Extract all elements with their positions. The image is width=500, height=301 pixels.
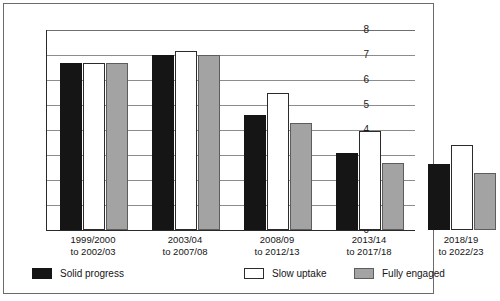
bar-fully[interactable] [198,55,220,230]
bar-slow[interactable] [83,63,105,231]
x-axis-label-line: to 2007/08 [139,246,231,258]
x-axis-label: 2018/19to 2022/23 [415,234,500,258]
bar-solid[interactable] [244,115,266,230]
x-axis-label-line: 2008/09 [231,234,323,246]
x-axis-label-line: 2018/19 [415,234,500,246]
x-axis-label: 2013/14to 2017/18 [323,234,415,258]
bar-solid[interactable] [336,153,358,231]
bar-solid[interactable] [428,164,450,230]
x-axis-label-line: to 2017/18 [323,246,415,258]
bar-slow[interactable] [359,131,381,230]
bar-group [152,30,244,230]
legend-item-solid[interactable]: Solid progress [32,266,124,280]
x-axis-label-line: 2003/04 [139,234,231,246]
legend-item-fully[interactable]: Fully engaged [354,266,445,280]
bar-solid[interactable] [60,63,82,231]
bar-slow[interactable] [175,51,197,230]
bar-fully[interactable] [106,63,128,231]
x-axis-label-line: to 2022/23 [415,246,500,258]
x-axis-label-line: 2013/14 [323,234,415,246]
bar-fully[interactable] [290,123,312,231]
bar-slow[interactable] [451,145,473,230]
legend-item-slow[interactable]: Slow uptake [244,266,326,280]
legend-label: Fully engaged [382,268,445,279]
chart-legend: Solid progressSlow uptakeFully engaged [22,266,422,284]
bar-solid[interactable] [152,55,174,230]
bar-group [336,30,428,230]
bar-fully[interactable] [382,163,404,231]
legend-swatch-solid [32,268,52,279]
x-axis-label: 1999/2000to 2002/03 [47,234,139,258]
legend-label: Slow uptake [272,268,326,279]
bar-fully[interactable] [474,173,496,231]
bar-slow[interactable] [267,93,289,231]
legend-label: Solid progress [60,268,124,279]
bars-layer [47,30,415,230]
x-axis-label-line: 1999/2000 [47,234,139,246]
x-axis-labels: 1999/2000to 2002/032003/04to 2007/082008… [47,234,415,262]
bar-group [428,30,500,230]
legend-swatch-slow [244,268,264,279]
bar-group [60,30,152,230]
plot-wrapper: 8 7 6 5 4 3 2 1 0 1999/2000to 2002/03200… [4,4,435,295]
x-axis-label: 2003/04to 2007/08 [139,234,231,258]
legend-swatch-fully [354,268,374,279]
x-axis-label-line: to 2012/13 [231,246,323,258]
x-axis-label: 2008/09to 2012/13 [231,234,323,258]
x-axis-label-line: to 2002/03 [47,246,139,258]
bar-group [244,30,336,230]
chart-figure: 8 7 6 5 4 3 2 1 0 1999/2000to 2002/03200… [3,3,434,294]
